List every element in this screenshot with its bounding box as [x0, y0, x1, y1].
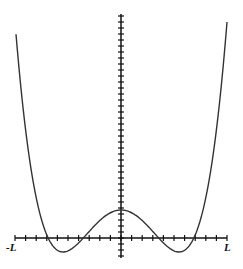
x-axis-right-label: L [224, 241, 231, 253]
y-axis-ticks [118, 16, 124, 256]
plot [0, 0, 243, 269]
x-axis-left-label: -L [6, 241, 16, 253]
